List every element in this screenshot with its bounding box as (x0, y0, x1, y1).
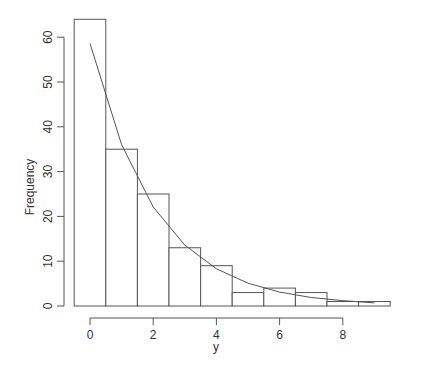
y-tick-label: 50 (41, 75, 55, 89)
histogram-bar-4 (201, 266, 233, 306)
histogram-bar-8 (327, 302, 359, 306)
histogram-bar-2 (137, 194, 169, 306)
histogram-bar-0 (74, 19, 106, 306)
y-tick-label: 0 (41, 302, 55, 309)
x-axis-label: y (213, 340, 219, 354)
histogram-bar-3 (169, 248, 201, 306)
histogram-bar-5 (232, 293, 264, 306)
histogram-bar-6 (264, 288, 296, 306)
y-tick-label: 20 (41, 209, 55, 223)
x-tick-label: 2 (150, 328, 157, 342)
y-tick-label: 40 (41, 120, 55, 134)
y-axis: 0102030405060 (41, 30, 64, 309)
histogram-bar-7 (295, 293, 327, 306)
histogram-bars (74, 19, 390, 306)
x-tick-label: 8 (339, 328, 346, 342)
x-axis: 02468 (87, 318, 347, 342)
y-axis-label: Frequency (23, 159, 37, 216)
y-tick-label: 30 (41, 165, 55, 179)
x-tick-label: 0 (87, 328, 94, 342)
histogram-chart: 0102030405060 02468 Frequency y (0, 0, 429, 372)
y-tick-label: 10 (41, 254, 55, 268)
x-tick-label: 6 (276, 328, 283, 342)
histogram-bar-1 (106, 149, 138, 306)
y-tick-label: 60 (41, 30, 55, 44)
